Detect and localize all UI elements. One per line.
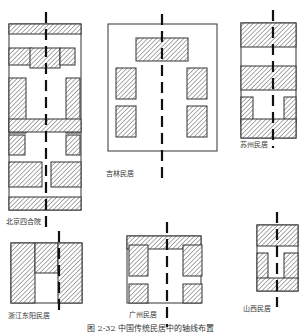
plan-label-shanxi: 山西民居 [243,306,271,313]
axis-plan-diagram [0,0,302,335]
building-block [35,243,58,273]
building-block [257,253,268,279]
building-block [60,48,75,65]
plan-label-suzhou: 苏州民居 [240,142,268,149]
plan-zhejiang [11,231,82,316]
building-block [129,284,148,303]
figure-caption: 图 2-32 中国传统民居中的轴线布置 [87,325,214,333]
building-block [9,135,25,155]
building-block [187,68,207,99]
building-block [241,23,296,47]
building-block [51,162,81,187]
plan-label-guangzhou: 广州民居 [129,312,157,319]
building-block [241,119,296,138]
plan-beijing [9,12,81,228]
plan-label-beijing: 北京四合院 [6,219,41,226]
building-block [116,106,136,137]
building-block [58,243,82,303]
building-block [183,284,202,303]
building-block [11,243,35,303]
building-block [129,245,148,276]
building-block [9,48,31,65]
plan-jilin [108,14,217,183]
building-block [187,106,207,137]
building-block [284,253,298,279]
building-block [9,162,42,187]
building-block [116,68,136,99]
building-block [241,66,296,90]
plan-label-jilin: 吉林民居 [106,171,134,178]
plan-shanxi [257,212,298,307]
building-block [183,245,202,276]
plan-label-zhejiang: 浙江东阳民居 [8,313,50,320]
building-block [66,135,80,155]
plan-suzhou [241,10,296,148]
